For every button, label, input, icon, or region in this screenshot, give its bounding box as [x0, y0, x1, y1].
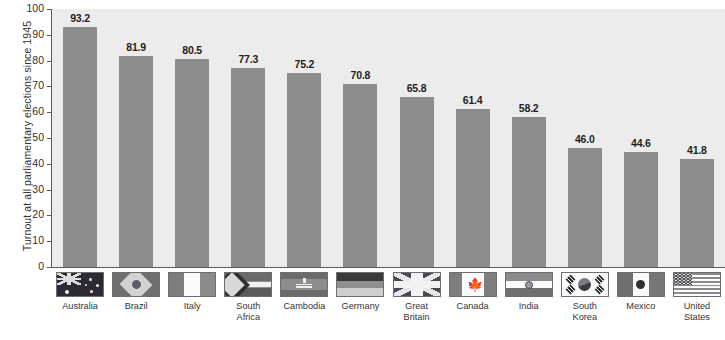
category-entry: Great Britain [389, 272, 445, 322]
bar[interactable] [287, 73, 321, 267]
bar-slot: 93.2 [52, 9, 108, 267]
bar-slot: 46.0 [557, 9, 613, 267]
category-label: Great Britain [389, 301, 445, 322]
category-entry: Brazil [108, 272, 164, 312]
category-label: Canada [445, 301, 501, 312]
bar[interactable] [119, 56, 153, 267]
category-label: United States [669, 301, 725, 322]
bar-slot: 65.8 [389, 9, 445, 267]
category-label: Australia [52, 301, 108, 312]
y-axis-tick-label: 100 [26, 2, 44, 15]
bar[interactable] [624, 152, 658, 267]
cut-off-caption [0, 333, 725, 340]
y-axis-tick-mark [47, 241, 51, 242]
bar-slot: 70.8 [332, 9, 388, 267]
category-axis-layer: AustraliaBrazilItalySouth AfricaCambodia… [52, 272, 725, 340]
category-entry: India [501, 272, 557, 312]
y-axis-tick-label: 20 [32, 208, 44, 221]
bar-slot: 58.2 [501, 9, 557, 267]
category-label: Brazil [108, 301, 164, 312]
bar-chart-figure: Turnout at all parliamentary elections s… [0, 0, 725, 340]
flag-canada-icon: 🍁 [449, 272, 497, 297]
y-axis-tick-mark [47, 9, 51, 10]
bar-value-label: 70.8 [351, 69, 371, 81]
bar[interactable] [568, 148, 602, 267]
y-axis-tick: 30 [0, 190, 51, 191]
category-entry: Mexico [613, 272, 669, 312]
flag-south-africa-icon [224, 272, 272, 297]
y-axis-tick-label: 30 [32, 183, 44, 196]
y-axis-tick-label: 70 [32, 79, 44, 92]
bar-value-label: 65.8 [407, 82, 427, 94]
y-axis-tick-label: 80 [32, 54, 44, 67]
y-axis-tick-mark [47, 164, 51, 165]
y-axis-tick-mark [47, 86, 51, 87]
y-axis-tick: 50 [0, 138, 51, 139]
y-axis-tick-mark [47, 138, 51, 139]
category-entry: Italy [164, 272, 220, 312]
bar[interactable] [680, 159, 714, 267]
flag-australia-icon [56, 272, 104, 297]
bar[interactable] [63, 27, 97, 267]
y-axis-tick-mark [47, 215, 51, 216]
bar[interactable] [343, 84, 377, 267]
bar-slot: 41.8 [669, 9, 725, 267]
bar[interactable] [175, 59, 209, 267]
bar-value-label: 80.5 [182, 44, 202, 56]
y-axis-tick: 90 [0, 35, 51, 36]
category-entry: Cambodia [276, 272, 332, 312]
flag-italy-icon [168, 272, 216, 297]
bar[interactable] [456, 109, 490, 267]
flag-mexico-icon [617, 272, 665, 297]
bar-value-label: 58.2 [519, 102, 539, 114]
bar-value-label: 46.0 [575, 133, 595, 145]
y-axis-tick: 70 [0, 86, 51, 87]
bar-slot: 44.6 [613, 9, 669, 267]
flag-south-korea-icon [561, 272, 609, 297]
flag-brazil-icon [112, 272, 160, 297]
bar-value-label: 75.2 [295, 58, 315, 70]
y-axis-tick: 20 [0, 215, 51, 216]
category-label: India [501, 301, 557, 312]
category-entry: Australia [52, 272, 108, 312]
category-label: Cambodia [276, 301, 332, 312]
category-label: Mexico [613, 301, 669, 312]
bar-value-label: 81.9 [126, 41, 146, 53]
y-axis-tick-mark [47, 267, 51, 268]
bar[interactable] [512, 117, 546, 267]
flag-cambodia-icon [280, 272, 328, 297]
y-axis-tick-mark [47, 35, 51, 36]
y-axis-tick: 0 [0, 267, 51, 268]
bar-value-label: 61.4 [463, 94, 483, 106]
bar-slot: 75.2 [276, 9, 332, 267]
category-entry: 🍁Canada [445, 272, 501, 312]
category-entry: South Africa [220, 272, 276, 322]
category-label: South Africa [220, 301, 276, 322]
category-entry: Germany [332, 272, 388, 312]
y-axis-tick: 100 [0, 9, 51, 10]
flag-germany-icon [336, 272, 384, 297]
category-label: Germany [332, 301, 388, 312]
category-label: South Korea [557, 301, 613, 322]
y-axis-tick-label: 60 [32, 105, 44, 118]
y-axis-tick: 40 [0, 164, 51, 165]
y-axis-tick-label: 50 [32, 131, 44, 144]
y-axis-tick-mark [47, 112, 51, 113]
bar-slot: 80.5 [164, 9, 220, 267]
bar[interactable] [231, 68, 265, 267]
category-label: Italy [164, 301, 220, 312]
category-entry: South Korea [557, 272, 613, 322]
bars-layer: 93.281.980.577.375.270.865.861.458.246.0… [52, 9, 725, 267]
flag-united-states-icon [673, 272, 721, 297]
x-axis-line [51, 267, 725, 268]
y-axis-tick: 10 [0, 241, 51, 242]
flag-india-icon [505, 272, 553, 297]
y-axis-tick-label: 0 [38, 260, 44, 273]
y-axis-tick-label: 90 [32, 28, 44, 41]
category-entry: United States [669, 272, 725, 322]
y-axis-tick-label: 10 [32, 234, 44, 247]
bar[interactable] [400, 97, 434, 267]
flag-great-britain-icon [393, 272, 441, 297]
y-axis-tick-mark [47, 61, 51, 62]
bar-slot: 81.9 [108, 9, 164, 267]
